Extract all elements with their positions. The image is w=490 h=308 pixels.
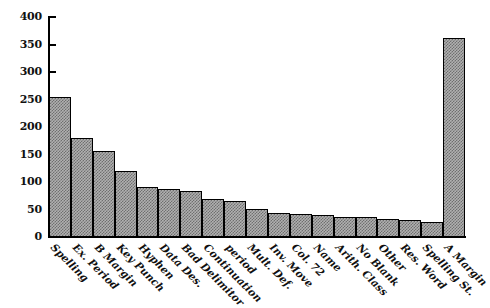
- bar: [224, 201, 246, 237]
- bar: [290, 214, 312, 237]
- y-tick-label: 150: [2, 147, 42, 163]
- bar: [158, 189, 180, 237]
- bar: [377, 219, 399, 237]
- y-tick-label: 200: [2, 119, 42, 135]
- y-tick-label: 400: [2, 9, 42, 25]
- bar: [180, 191, 202, 237]
- bar: [312, 215, 334, 237]
- bar: [93, 151, 115, 237]
- bar: [421, 222, 443, 237]
- y-tick-label: 350: [2, 37, 42, 53]
- bar: [202, 199, 224, 238]
- bar: [246, 209, 268, 237]
- y-tick-label: 300: [2, 64, 42, 80]
- bar: [356, 217, 378, 237]
- y-tick-label: 0: [2, 229, 42, 245]
- y-tick-label: 100: [2, 174, 42, 190]
- y-tick-label: 250: [2, 92, 42, 108]
- bar: [399, 220, 421, 237]
- bars-layer: [49, 17, 465, 237]
- bar: [71, 138, 93, 237]
- bar: [137, 187, 159, 237]
- bar: [115, 171, 137, 237]
- bar: [49, 97, 71, 237]
- x-axis-labels: SpellingEx. PeriodB MarginKey PunchHyphe…: [49, 239, 465, 308]
- bar: [443, 38, 465, 237]
- bar: [334, 217, 356, 237]
- y-tick-label: 50: [2, 202, 42, 218]
- bar: [268, 213, 290, 237]
